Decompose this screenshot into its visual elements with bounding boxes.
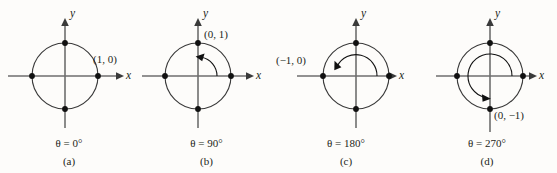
y-axis-arrowhead-icon bbox=[486, 18, 494, 26]
point-right bbox=[228, 73, 234, 79]
terminal-point-label: (1, 0) bbox=[93, 54, 117, 65]
x-axis-arrowhead-icon bbox=[116, 72, 124, 80]
y-axis-label: y bbox=[70, 8, 75, 20]
panel-b: x y (0, 1) θ = 90° (b) bbox=[138, 0, 275, 173]
rotation-arc bbox=[202, 57, 218, 76]
y-axis-arrowhead-icon bbox=[61, 18, 69, 26]
panel-b-letter-caption: (b) bbox=[138, 156, 275, 167]
panel-d-letter-caption: (d) bbox=[417, 156, 557, 167]
unit-circle-figure: x y (1, 0) θ = 0° (a) x y (0, 1) θ = bbox=[0, 0, 557, 173]
y-axis-label: y bbox=[203, 8, 208, 20]
x-axis-arrowhead-icon bbox=[246, 72, 254, 80]
point-right bbox=[386, 73, 392, 79]
x-axis-label: x bbox=[399, 70, 404, 82]
point-left bbox=[320, 73, 326, 79]
point-top bbox=[195, 40, 201, 46]
point-bottom bbox=[487, 106, 493, 112]
point-bottom bbox=[62, 106, 68, 112]
panel-a-letter-caption: (a) bbox=[0, 156, 138, 167]
point-top bbox=[487, 40, 493, 46]
panel-d-theta-caption: θ = 270° bbox=[417, 138, 557, 149]
point-bottom bbox=[353, 106, 359, 112]
rotation-arc bbox=[337, 55, 377, 76]
panel-a: x y (1, 0) θ = 0° (a) bbox=[0, 0, 138, 173]
point-left bbox=[29, 73, 35, 79]
x-axis-label: x bbox=[539, 70, 544, 82]
rotation-arrowhead-icon bbox=[196, 54, 205, 62]
panel-c-letter-caption: (c) bbox=[275, 156, 417, 167]
terminal-point-label: (0, −1) bbox=[494, 110, 524, 121]
y-axis-label: y bbox=[495, 8, 500, 20]
point-top bbox=[353, 40, 359, 46]
y-axis-arrowhead-icon bbox=[352, 18, 360, 26]
point-right bbox=[520, 73, 526, 79]
point-top bbox=[62, 40, 68, 46]
panel-c: x y (−1, 0) θ = 180° (c) bbox=[275, 0, 417, 173]
panel-b-theta-caption: θ = 90° bbox=[138, 138, 275, 149]
x-axis-label: x bbox=[256, 70, 261, 82]
panel-a-theta-caption: θ = 0° bbox=[0, 138, 138, 149]
y-axis-label: y bbox=[361, 8, 366, 20]
panel-d: x y (0, −1) θ = 270° (d) bbox=[417, 0, 557, 173]
point-left bbox=[162, 73, 168, 79]
x-axis-arrowhead-icon bbox=[529, 72, 537, 80]
terminal-point-label: (0, 1) bbox=[204, 29, 228, 40]
x-axis-label: x bbox=[126, 70, 131, 82]
terminal-point-label: (−1, 0) bbox=[276, 55, 306, 66]
point-bottom bbox=[195, 106, 201, 112]
panel-c-theta-caption: θ = 180° bbox=[275, 138, 417, 149]
point-right bbox=[95, 73, 101, 79]
point-left bbox=[454, 73, 460, 79]
y-axis-arrowhead-icon bbox=[194, 18, 202, 26]
